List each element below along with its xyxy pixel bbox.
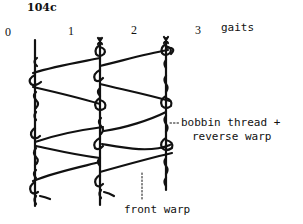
thread-drawing — [0, 0, 303, 224]
lace-diagram: 104c 0 1 2 3 gaits — [0, 0, 303, 224]
bobbin-threads — [33, 48, 173, 199]
reverse-warp-label: reverse warp — [192, 130, 271, 143]
leader-lines — [142, 123, 180, 201]
bobbin-thread-label: bobbin thread + — [181, 116, 280, 129]
front-warp-label: front warp — [124, 203, 190, 216]
warp-thread-2 — [94, 38, 105, 205]
